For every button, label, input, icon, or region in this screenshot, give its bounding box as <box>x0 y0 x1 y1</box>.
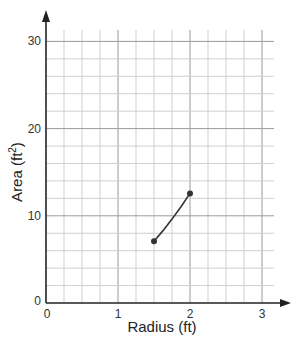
data-point <box>187 190 193 196</box>
y-tick-label: 0 <box>34 294 41 308</box>
x-tick-label: 3 <box>259 307 266 321</box>
data-point <box>151 238 157 244</box>
grid <box>46 30 274 303</box>
axes <box>42 10 291 307</box>
area-radius-chart: 01230102030 Radius (ft) Area (ft2) <box>0 0 296 344</box>
tick-labels: 01230102030 <box>28 34 266 321</box>
y-axis-label: Area (ft2) <box>7 142 25 202</box>
x-axis-label: Radius (ft) <box>127 318 196 335</box>
y-tick-label: 10 <box>28 209 42 223</box>
y-tick-label: 20 <box>28 122 42 136</box>
y-axis-arrow-icon <box>42 10 50 22</box>
x-tick-label: 1 <box>115 307 122 321</box>
y-tick-label: 30 <box>28 34 42 48</box>
x-tick-label: 0 <box>44 307 51 321</box>
x-axis-arrow-icon <box>280 299 291 307</box>
